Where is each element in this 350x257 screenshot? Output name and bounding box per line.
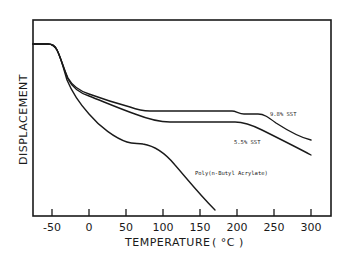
curve-poly-n-butyl-acrylate	[33, 44, 215, 210]
curve-9-8-sst	[33, 44, 311, 140]
tick-label: 300	[301, 221, 322, 234]
x-axis-title: TEMPERATURE	[124, 236, 210, 249]
y-axis-title: DISPLACEMENT	[17, 74, 30, 165]
tick-label: 250	[264, 221, 285, 234]
chart: -50 0 50 100 150 200 250 300 TEMPERATURE…	[0, 0, 350, 257]
tick-label: 200	[227, 221, 248, 234]
tick-label: -50	[43, 221, 61, 234]
plot-frame	[33, 20, 331, 216]
x-tick-labels: -50 0 50 100 150 200 250 300	[43, 221, 321, 234]
label-5-5-sst: 5.5% SST	[234, 139, 261, 145]
curve-5-5-sst	[33, 44, 311, 155]
tick-label: 50	[119, 221, 133, 234]
tick-label: 100	[153, 221, 174, 234]
label-poly-n-butyl-acrylate: Poly(n-Butyl Acrylate)	[195, 170, 268, 177]
tick-label: 0	[86, 221, 93, 234]
x-axis-unit: ( °C )	[212, 236, 244, 249]
x-ticks	[52, 209, 311, 216]
label-9-8-sst: 9.8% SST	[270, 111, 297, 117]
tick-label: 150	[190, 221, 211, 234]
